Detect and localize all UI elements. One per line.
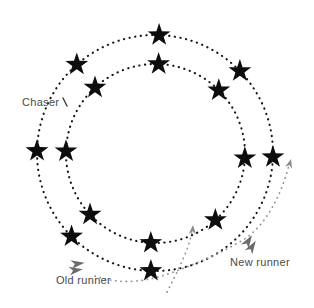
runner-star-inner-7 [84,76,107,98]
new-position-arrow-head [189,225,197,234]
runner-star-inner-0 [147,52,170,74]
old-runner-path-arrow-head [285,158,294,169]
chaser-tick [63,98,67,106]
runner-star-inner-6 [55,139,78,161]
runner-star-inner-1 [207,78,230,100]
runner-star-outer-5 [26,139,49,161]
chaser-label: Chaser [22,96,59,108]
runner-star-outer-0 [148,23,171,45]
runner-star-outer-6 [65,53,88,75]
runner-star-outer-3 [140,259,163,281]
old-runner-label: Old runner [56,274,111,286]
new-runner-label: New runner [230,256,290,268]
old-runner-icon [68,259,86,275]
new-runner-icon [239,233,260,255]
new-position-arrow [167,231,192,292]
old-runner-icon-stroke [70,259,85,269]
runner-star-inner-5 [79,203,102,225]
runner-track-diagram: Chaser Old runner New runner [0,0,314,308]
